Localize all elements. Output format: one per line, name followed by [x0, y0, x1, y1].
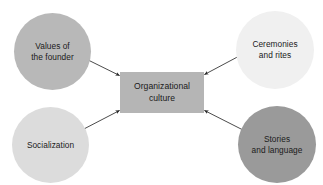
node-label-ceremonies-and-rites: Ceremonies and rites [249, 39, 300, 61]
node-label-organizational-culture: Organizational culture [131, 81, 193, 104]
node-organizational-culture: Organizational culture [120, 72, 204, 113]
arrow-stories-to-culture [205, 111, 246, 132]
node-ceremonies-and-rites: Ceremonies and rites [236, 11, 314, 89]
node-label-values-of-the-founder: Values of the founder [28, 41, 77, 63]
node-label-socialization: Socialization [24, 140, 77, 151]
organizational-culture-diagram: Values of the founder Ceremonies and rit… [0, 0, 323, 185]
node-socialization: Socialization [12, 107, 89, 183]
arrow-socialization-to-culture [80, 111, 120, 132]
node-stories-and-language: Stories and language [238, 106, 316, 183]
node-values-of-the-founder: Values of the founder [14, 13, 91, 90]
node-label-stories-and-language: Stories and language [249, 134, 306, 156]
